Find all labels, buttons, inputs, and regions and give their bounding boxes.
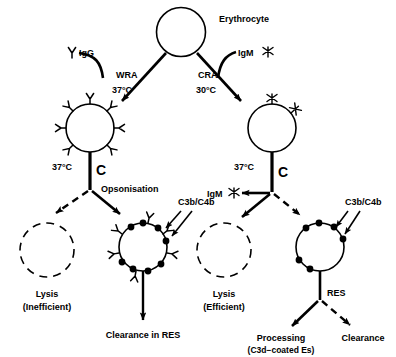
- lysis-label-left: Lysis: [36, 289, 59, 299]
- c3b-c4b-leader-left-b: [172, 211, 192, 236]
- cra-temperature-label: 30°C: [196, 85, 217, 95]
- immune-clearance-diagram: Erythrocyte IgG WRA 37°C 37°C C Opsonisa…: [0, 0, 396, 357]
- arrow-res-to-processing: [292, 301, 318, 326]
- processing-label: Processing: [257, 333, 306, 343]
- lysis-qualifier-right: (Efficient): [203, 302, 245, 312]
- c3b-c4b-leader-left-a: [166, 211, 181, 228]
- res-label: RES: [327, 288, 346, 298]
- arrow-right-to-lysis: [242, 194, 270, 217]
- igm-star-icon: [263, 47, 273, 57]
- wra-mechanism-label: WRA: [116, 70, 138, 80]
- igm-label: IgM: [238, 48, 254, 58]
- clearance-in-res-label: Clearance in RES: [106, 330, 181, 340]
- lysis-label-right: Lysis: [213, 289, 236, 299]
- diagram-canvas: Erythrocyte IgG WRA 37°C 37°C C Opsonisa…: [0, 0, 396, 357]
- right-binding-temperature-label: 37°C: [234, 162, 255, 172]
- cra-mechanism-label: CRA: [198, 70, 218, 80]
- erythrocyte-label: Erythrocyte: [219, 14, 269, 24]
- lysis-qualifier-left: (Inefficient): [23, 302, 72, 312]
- erythrocyte-cell: [157, 8, 206, 57]
- complement-symbol-left: C: [96, 162, 106, 178]
- opsonisation-label: Opsonisation: [101, 184, 159, 194]
- c3b-coated-erythrocyte-right: [296, 223, 344, 271]
- c3b-c4b-label-right: C3b/C4b: [345, 197, 382, 207]
- igg-label: IgG: [79, 48, 94, 58]
- arrow-left-to-lysis-dashed: [56, 191, 88, 213]
- complement-symbol-right: C: [278, 164, 288, 180]
- igg-y-icon: [68, 48, 75, 59]
- igm-binding-hook: [218, 52, 236, 78]
- wra-temperature-label: 37°C: [112, 85, 133, 95]
- arrow-right-to-opsonisation-dashed: [274, 194, 300, 215]
- igm-sensitised-erythrocyte: [248, 104, 296, 152]
- left-binding-temperature-label: 37°C: [52, 162, 73, 172]
- processing-sublabel: (C3d−coated Es): [248, 345, 315, 355]
- igm-elution-star-icon: [229, 188, 239, 198]
- lysis-ghost-cell-left: [20, 223, 74, 277]
- clearance-label: Clearance: [341, 333, 384, 343]
- c3b-c4b-leader-right-a: [336, 211, 348, 227]
- igm-elution-label: IgM: [207, 189, 223, 199]
- lysis-ghost-cell-right: [197, 223, 251, 277]
- c3b-c4b-leader-right-b: [345, 211, 360, 234]
- arrow-left-to-opsonisation: [92, 191, 120, 214]
- arrow-res-to-clearance-dashed: [322, 301, 350, 325]
